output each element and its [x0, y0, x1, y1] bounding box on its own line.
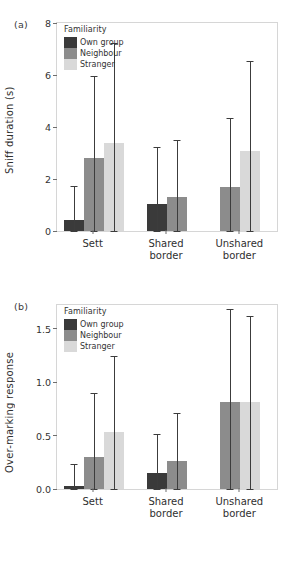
error-bar-cap-top — [154, 147, 161, 148]
legend-swatch-icon — [64, 48, 77, 59]
y-axis-tick-label: 4 — [45, 122, 57, 133]
error-bar-cap-top — [174, 140, 181, 141]
panel-b-plot-area: 0.00.51.01.5FamiliarityOwn groupNeighbou… — [56, 304, 278, 490]
error-bar — [230, 309, 231, 489]
panel-a-ylabel: Sniff duration (s) — [4, 55, 15, 205]
error-bar-cap-top — [247, 316, 254, 317]
legend-item-label: Neighbour — [80, 332, 122, 340]
error-bar-cap-top — [110, 356, 117, 357]
legend-swatch-icon — [64, 37, 77, 48]
error-bar — [250, 61, 251, 231]
legend-title: Familiarity — [64, 26, 124, 34]
x-axis-tick-label: Sett — [82, 238, 102, 250]
panel-a-tag: (a) — [14, 19, 28, 30]
legend-item[interactable]: Stranger — [64, 59, 124, 70]
error-bar — [250, 316, 251, 489]
error-bar-cap-bottom — [70, 231, 77, 232]
y-axis-tick-label: 6 — [45, 70, 57, 81]
x-axis-tick-label: Unshared border — [215, 496, 263, 520]
error-bar-cap-top — [174, 413, 181, 414]
legend-item-label: Stranger — [80, 61, 115, 69]
legend: FamiliarityOwn groupNeighbourStranger — [64, 26, 124, 70]
error-bar-cap-bottom — [154, 489, 161, 490]
error-bar — [74, 186, 75, 231]
error-bar — [157, 434, 158, 489]
y-axis-tick-label: 0 — [45, 226, 57, 237]
y-axis-tick-label: 2 — [45, 174, 57, 185]
legend-swatch-icon — [64, 59, 77, 70]
panel-b-tag: (b) — [14, 301, 28, 312]
error-bar — [157, 147, 158, 232]
panel-a: (a) Sniff duration (s) 02468FamiliarityO… — [0, 0, 294, 281]
error-bar-cap-top — [90, 393, 97, 394]
x-axis-tick — [239, 230, 240, 234]
legend-swatch-icon — [64, 330, 77, 341]
error-bar-cap-bottom — [174, 489, 181, 490]
error-bar — [177, 413, 178, 489]
x-axis-tick-label: Unshared border — [215, 238, 263, 262]
figure-root: (a) Sniff duration (s) 02468FamiliarityO… — [0, 0, 294, 563]
x-axis-tick — [166, 488, 167, 492]
x-axis-tick-label: Shared border — [148, 496, 183, 520]
panel-b-ylabel: Over-marking response — [4, 322, 15, 502]
error-bar — [94, 76, 95, 231]
error-bar-cap-bottom — [154, 231, 161, 232]
legend-item[interactable]: Own group — [64, 37, 124, 48]
error-bar-cap-bottom — [70, 489, 77, 490]
error-bar-cap-bottom — [247, 489, 254, 490]
error-bar-cap-top — [154, 434, 161, 435]
error-bar — [114, 43, 115, 232]
error-bar-cap-top — [70, 464, 77, 465]
legend-item[interactable]: Neighbour — [64, 330, 124, 341]
error-bar-cap-top — [227, 309, 234, 310]
error-bar-cap-top — [247, 61, 254, 62]
error-bar — [230, 118, 231, 231]
y-axis-tick-label: 0.0 — [36, 484, 57, 495]
error-bar-cap-bottom — [227, 231, 234, 232]
y-axis-tick-label: 0.5 — [36, 430, 57, 441]
x-axis-tick-label: Sett — [82, 496, 102, 508]
error-bar-cap-top — [70, 186, 77, 187]
error-bar — [94, 393, 95, 489]
x-axis-tick — [239, 488, 240, 492]
legend-swatch-icon — [64, 319, 77, 330]
legend: FamiliarityOwn groupNeighbourStranger — [64, 308, 124, 352]
x-axis-tick — [92, 230, 93, 234]
legend-item-label: Neighbour — [80, 50, 122, 58]
error-bar-cap-top — [227, 118, 234, 119]
panel-b: (b) Over-marking response 0.00.51.01.5Fa… — [0, 282, 294, 563]
y-axis-tick-label: 1.5 — [36, 323, 57, 334]
legend-item-label: Own group — [80, 321, 124, 329]
error-bar-cap-bottom — [174, 231, 181, 232]
error-bar-cap-bottom — [110, 231, 117, 232]
y-axis-tick-label: 8 — [45, 18, 57, 29]
y-axis-tick-label: 1.0 — [36, 377, 57, 388]
error-bar-cap-bottom — [110, 489, 117, 490]
error-bar — [114, 356, 115, 489]
legend-item[interactable]: Stranger — [64, 341, 124, 352]
legend-title: Familiarity — [64, 308, 124, 316]
legend-item-label: Own group — [80, 39, 124, 47]
error-bar — [74, 464, 75, 489]
x-axis-tick — [92, 488, 93, 492]
error-bar-cap-top — [90, 76, 97, 77]
legend-item-label: Stranger — [80, 343, 115, 351]
error-bar-cap-bottom — [247, 231, 254, 232]
panel-a-plot-area: 02468FamiliarityOwn groupNeighbourStrang… — [56, 22, 278, 232]
x-axis-tick — [166, 230, 167, 234]
legend-swatch-icon — [64, 341, 77, 352]
error-bar — [177, 140, 178, 231]
legend-item[interactable]: Neighbour — [64, 48, 124, 59]
error-bar-cap-bottom — [227, 489, 234, 490]
legend-item[interactable]: Own group — [64, 319, 124, 330]
x-axis-tick-label: Shared border — [148, 238, 183, 262]
